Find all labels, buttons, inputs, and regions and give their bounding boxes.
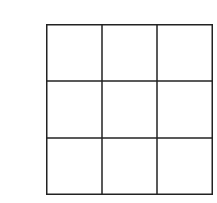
grid-cell-1-2[interactable] xyxy=(157,81,213,138)
grid-cell-2-0[interactable] xyxy=(46,138,102,195)
grid-cell-2-2[interactable] xyxy=(157,138,213,195)
tic-tac-toe-grid xyxy=(46,24,213,195)
grid-cell-2-1[interactable] xyxy=(102,138,157,195)
grid-cell-1-1[interactable] xyxy=(102,81,157,138)
grid-lines xyxy=(46,24,213,195)
grid-cell-1-0[interactable] xyxy=(46,81,102,138)
grid-cell-0-1[interactable] xyxy=(102,24,157,81)
grid-cell-0-0[interactable] xyxy=(46,24,102,81)
grid-cell-0-2[interactable] xyxy=(157,24,213,81)
